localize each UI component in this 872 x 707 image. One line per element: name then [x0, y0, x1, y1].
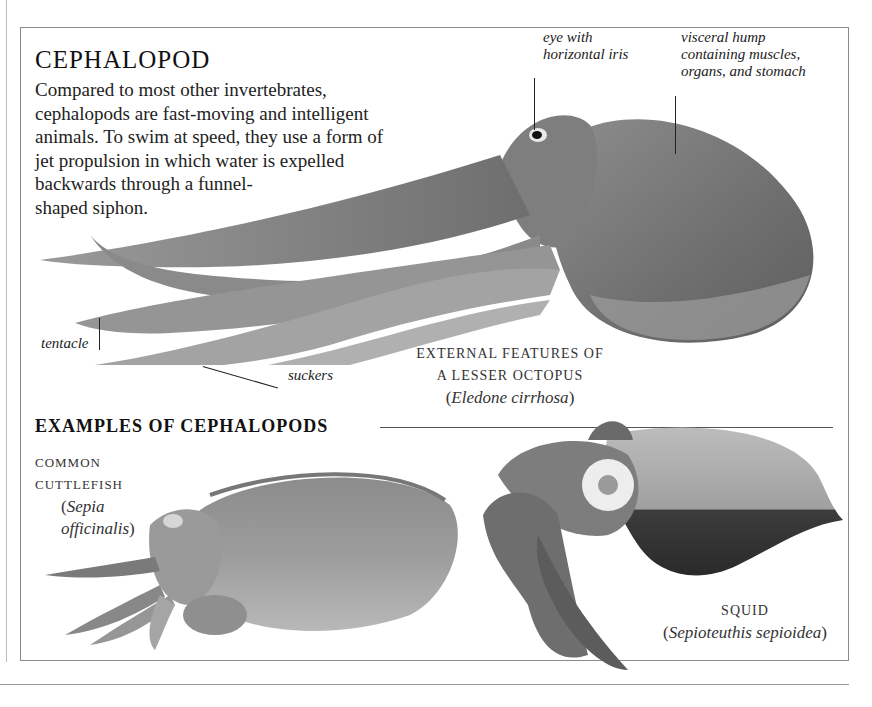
visceral-hump-leader-line: [675, 96, 676, 154]
octopus-scientific-name: Eledone cirrhosa: [451, 388, 568, 407]
suckers-label: suckers: [288, 367, 333, 384]
page-bottom-rule: [0, 684, 849, 685]
squid-caption: SQUID (Sepioteuthis sepioidea): [655, 600, 835, 644]
cuttlefish-eye: [163, 514, 183, 528]
tentacle-leader-line: [99, 318, 100, 350]
cuttlefish-illustration: [40, 465, 470, 660]
eye-leader-line: [534, 78, 535, 130]
examples-heading: EXAMPLES OF CEPHALOPODS: [35, 416, 328, 437]
tentacle-label: tentacle: [41, 335, 88, 352]
octopus-illustration: [30, 95, 830, 365]
eye-label: eye with horizontal iris: [543, 29, 628, 63]
page-title: CEPHALOPOD: [35, 46, 210, 74]
squid-scientific-name: Sepioteuthis sepioidea: [669, 623, 822, 642]
visceral-hump-label: visceral hump containing muscles, organs…: [681, 29, 806, 80]
page-margin-rule: [6, 0, 7, 662]
octopus-caption: EXTERNAL FEATURES OF A LESSER OCTOPUS (E…: [395, 343, 625, 409]
